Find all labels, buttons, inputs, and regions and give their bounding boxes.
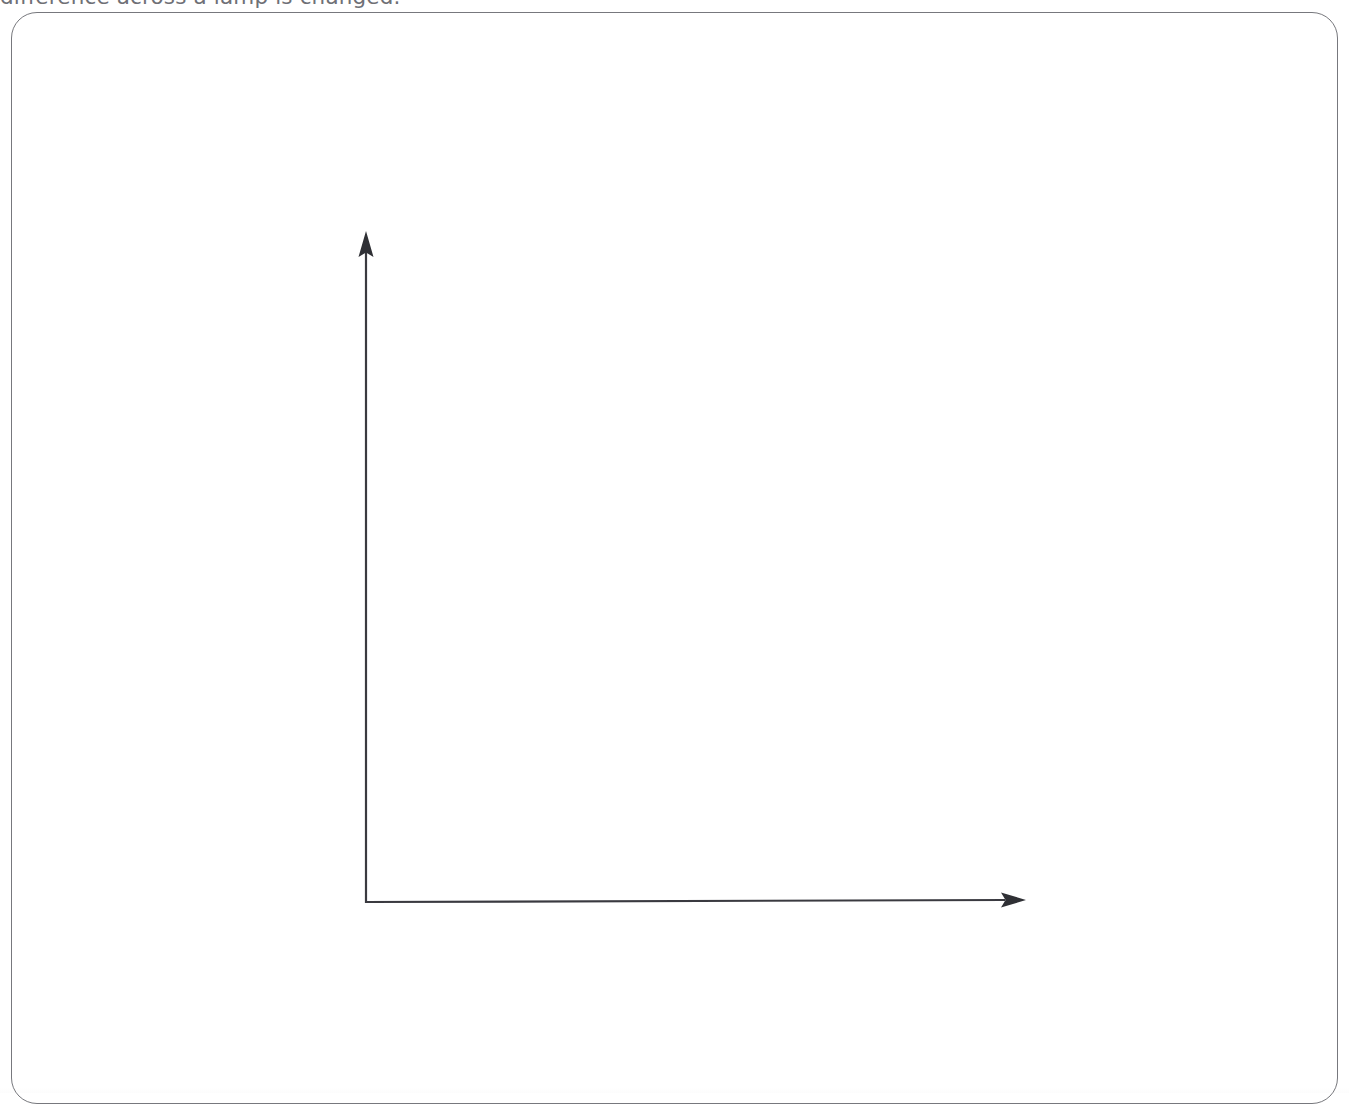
answer-box[interactable] (11, 12, 1338, 1104)
axes-svg (342, 213, 1052, 928)
x-axis-line (366, 900, 1005, 902)
question-stem-clip: difference across a lamp is changed. (0, 0, 760, 12)
question-stem-text: difference across a lamp is changed. (0, 0, 400, 10)
graph-axes-figure (342, 213, 1052, 928)
